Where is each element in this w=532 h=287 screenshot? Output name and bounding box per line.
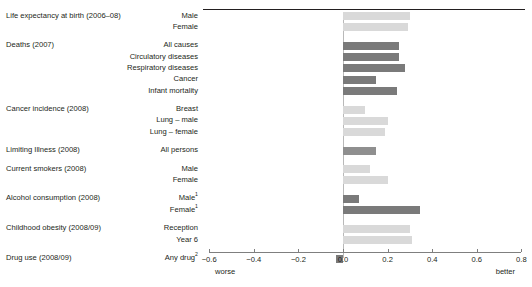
bar [343, 64, 405, 72]
row-label-text: Male [179, 193, 195, 202]
row-label-text: Male [182, 11, 198, 20]
row-label-text: Breast [176, 104, 198, 113]
bar [343, 23, 408, 31]
row-label: Male1 [48, 194, 198, 202]
bar [343, 117, 388, 125]
x-axis-tick [343, 249, 344, 252]
row-label-footnote-marker: 1 [195, 203, 198, 209]
bar [343, 76, 376, 84]
row-label: Year 6 [48, 236, 198, 244]
row-label: All causes [48, 41, 198, 49]
row-label-text: Lung – male [156, 115, 198, 124]
bar [343, 147, 376, 155]
row-label-text: Female [173, 22, 198, 31]
bar [343, 12, 410, 20]
x-axis-tick [298, 249, 299, 252]
row-label: Lung – male [48, 116, 198, 124]
row-label: Female1 [48, 206, 198, 214]
x-axis-tick-label: 0.2 [368, 256, 408, 264]
x-axis-tick-label: 0.6 [457, 256, 497, 264]
row-label: Circulatory diseases [48, 53, 198, 61]
bar [343, 128, 385, 136]
x-axis-tick-label: −0.6 [189, 256, 229, 264]
axis-label-worse: worse [200, 268, 250, 276]
row-label-text: Cancer [174, 74, 198, 83]
row-label-footnote-marker: 1 [195, 192, 198, 198]
bar [343, 53, 399, 61]
group-title: Deaths (2007) [6, 41, 54, 49]
axis-label-better: better [480, 268, 530, 276]
row-label-text: Respiratory diseases [127, 63, 198, 72]
row-label-text: Year 6 [176, 235, 198, 244]
x-axis-tick [254, 249, 255, 252]
plot-area [200, 8, 526, 248]
x-axis-tick-label: 0.4 [412, 256, 452, 264]
row-label: Any drug2 [48, 254, 198, 262]
row-label: Cancer [48, 75, 198, 83]
chart-container: Life expectancy at birth (2006–08)MaleFe… [0, 0, 532, 287]
row-label-text: Circulatory diseases [130, 52, 198, 61]
bar [343, 87, 397, 95]
row-label: Male [48, 12, 198, 20]
x-axis-line [209, 252, 521, 253]
row-label-text: Reception [164, 223, 198, 232]
row-label-text: Female [170, 205, 195, 214]
row-label-text: Male [182, 164, 198, 173]
row-label-text: All causes [163, 40, 198, 49]
row-label: Breast [48, 105, 198, 113]
bar [343, 106, 365, 114]
bar [343, 236, 412, 244]
row-label-text: All persons [160, 145, 198, 154]
x-axis-tick [388, 249, 389, 252]
row-label: Respiratory diseases [48, 64, 198, 72]
x-axis-tick [477, 249, 478, 252]
row-label: Female [48, 176, 198, 184]
row-label-text: Infant mortality [148, 86, 198, 95]
x-axis-tick-label: −0.4 [234, 256, 274, 264]
bar [343, 176, 388, 184]
bar [343, 165, 370, 173]
x-axis-tick [209, 249, 210, 252]
row-label: Male [48, 165, 198, 173]
bar [343, 225, 410, 233]
row-label: All persons [48, 146, 198, 154]
row-label: Female [48, 23, 198, 31]
row-label: Lung – female [48, 128, 198, 136]
bar [343, 42, 399, 50]
x-axis-tick [521, 249, 522, 252]
bar [343, 206, 420, 214]
row-label: Reception [48, 224, 198, 232]
row-label-text: Female [173, 175, 198, 184]
row-label: Infant mortality [48, 87, 198, 95]
x-axis-tick-label: 0.8 [501, 256, 532, 264]
row-label-text: Lung – female [150, 127, 198, 136]
bar [343, 195, 359, 203]
x-axis-tick-label: −0.2 [278, 256, 318, 264]
x-axis-tick [432, 249, 433, 252]
x-axis-tick-label: 0.0 [323, 256, 363, 264]
